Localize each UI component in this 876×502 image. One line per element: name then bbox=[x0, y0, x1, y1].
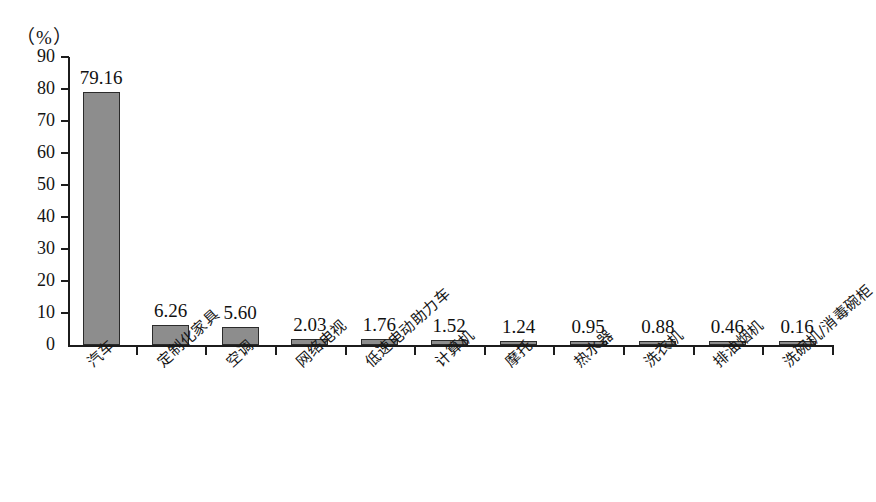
y-axis-tick-label: 60 bbox=[11, 143, 55, 161]
x-axis-tick bbox=[553, 347, 555, 355]
y-axis-tick-label: 50 bbox=[11, 175, 55, 193]
x-axis-tick bbox=[832, 347, 834, 355]
y-axis-tick bbox=[61, 248, 69, 250]
x-axis-tick bbox=[484, 347, 486, 355]
bar-value-label: 79.16 bbox=[56, 68, 146, 87]
x-axis-tick bbox=[693, 347, 695, 355]
y-axis-unit-label: （%） bbox=[16, 22, 73, 49]
y-axis-tick-label: 80 bbox=[11, 79, 55, 97]
y-axis-tick bbox=[61, 56, 69, 58]
x-axis-tick bbox=[762, 347, 764, 355]
x-axis-tick bbox=[414, 347, 416, 355]
y-axis-tick-label: 20 bbox=[11, 271, 55, 289]
y-axis-tick bbox=[61, 88, 69, 90]
y-axis-tick-label: 30 bbox=[11, 239, 55, 257]
x-axis-tick bbox=[136, 347, 138, 355]
y-axis-tick-label: 70 bbox=[11, 111, 55, 129]
y-axis-tick bbox=[61, 280, 69, 282]
x-axis-tick bbox=[275, 347, 277, 355]
x-axis-tick bbox=[623, 347, 625, 355]
x-axis-tick bbox=[205, 347, 207, 355]
y-axis-tick-label: 90 bbox=[11, 47, 55, 65]
bar bbox=[83, 92, 120, 345]
y-axis-tick-label: 40 bbox=[11, 207, 55, 225]
y-axis-line bbox=[68, 57, 70, 346]
y-axis-tick bbox=[61, 184, 69, 186]
y-axis-tick bbox=[61, 312, 69, 314]
plot-area: 0102030405060708090 79.166.265.602.031.7… bbox=[68, 57, 833, 345]
y-axis-tick bbox=[61, 216, 69, 218]
y-axis-tick bbox=[61, 152, 69, 154]
y-axis-tick bbox=[61, 120, 69, 122]
y-axis-tick-label: 0 bbox=[11, 335, 55, 353]
x-axis-tick bbox=[345, 347, 347, 355]
y-axis-tick-label: 10 bbox=[11, 303, 55, 321]
